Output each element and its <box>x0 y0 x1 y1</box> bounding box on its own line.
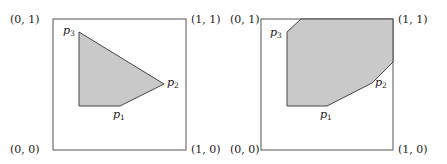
point-label-p1: p1 <box>113 108 125 122</box>
diagram-canvas: (0, 1) (1, 1) (0, 0) (1, 0) p3 p2 p1 (0,… <box>0 0 447 164</box>
corner-label-top-left: (0, 1) <box>10 13 40 26</box>
corner-label-top-left: (0, 1) <box>230 13 260 26</box>
right-panel: (0, 1) (1, 1) (0, 0) (1, 0) p3 p2 p1 <box>230 13 428 156</box>
point-label-p2: p2 <box>167 76 179 90</box>
point-label-p2: p2 <box>375 76 387 90</box>
point-label-p3: p3 <box>270 26 282 40</box>
convex-hull-polygon <box>79 32 164 106</box>
point-label-p3: p3 <box>63 24 75 38</box>
left-panel: (0, 1) (1, 1) (0, 0) (1, 0) p3 p2 p1 <box>10 13 221 156</box>
corner-label-top-right: (1, 1) <box>191 13 221 26</box>
corner-label-bottom-right: (1, 0) <box>398 143 428 156</box>
corner-label-top-right: (1, 1) <box>398 13 428 26</box>
corner-label-bottom-right: (1, 0) <box>191 143 221 156</box>
dominated-region-polygon <box>287 19 393 106</box>
point-label-p1: p1 <box>320 108 332 122</box>
corner-label-bottom-left: (0, 0) <box>10 143 40 156</box>
corner-label-bottom-left: (0, 0) <box>230 143 260 156</box>
